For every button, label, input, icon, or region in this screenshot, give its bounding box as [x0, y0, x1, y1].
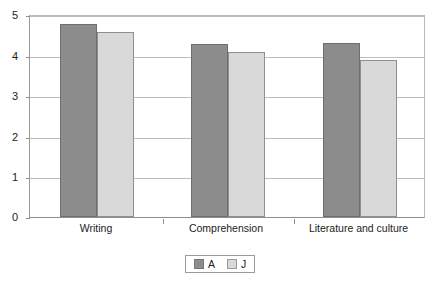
- plot-area: [29, 15, 425, 218]
- bar-comprehension-a: [191, 44, 228, 217]
- bar-writing-j: [97, 32, 134, 217]
- y-axis-label-3: 3: [0, 91, 18, 102]
- legend-swatch-j-icon: [227, 259, 237, 269]
- y-axis-label-4: 4: [0, 51, 18, 62]
- y-tick-4: [26, 57, 30, 58]
- legend-entry-j: J: [227, 259, 246, 270]
- x-axis-label-comprehension: Comprehension: [176, 223, 276, 234]
- bar-writing-a: [60, 24, 97, 217]
- y-tick-2: [26, 138, 30, 139]
- x-tick-2: [294, 219, 295, 224]
- chart-legend: A J: [185, 255, 255, 273]
- legend-swatch-a-icon: [194, 259, 204, 269]
- x-axis-label-writing: Writing: [46, 223, 146, 234]
- bar-chart: 5 4 3 2 1 0 Writing Comprehension Litera…: [0, 0, 441, 288]
- y-axis-label-2: 2: [0, 132, 18, 143]
- bar-literature-j: [360, 60, 397, 217]
- x-tick-1: [163, 219, 164, 224]
- legend-label-j: J: [241, 259, 246, 270]
- y-axis-label-1: 1: [0, 172, 18, 183]
- y-axis-label-0: 0: [0, 212, 18, 223]
- legend-entry-a: A: [194, 259, 215, 270]
- bar-literature-a: [323, 43, 360, 217]
- legend-label-a: A: [208, 259, 215, 270]
- bar-comprehension-j: [228, 52, 265, 217]
- y-tick-5: [26, 16, 30, 17]
- x-axis-label-literature-and-culture: Literature and culture: [291, 223, 426, 234]
- y-tick-3: [26, 97, 30, 98]
- y-axis-label-5: 5: [0, 10, 18, 21]
- gridline-5: [30, 16, 424, 17]
- y-tick-1: [26, 178, 30, 179]
- y-tick-0: [26, 218, 30, 219]
